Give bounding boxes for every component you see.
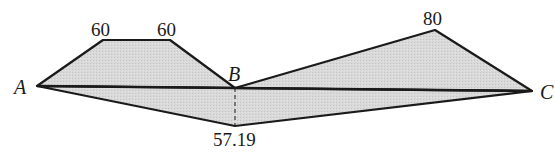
point-label-b: B: [228, 64, 240, 84]
value-label-80: 80: [423, 9, 442, 28]
point-label-a: A: [14, 77, 26, 97]
diagram-shapes: [0, 0, 555, 153]
lower-region: [37, 86, 532, 126]
value-label-60-left: 60: [91, 20, 110, 39]
upper-left-region: [37, 40, 235, 88]
point-label-c: C: [540, 82, 553, 102]
diagram-canvas: A B C 60 60 80 57.19: [0, 0, 555, 153]
value-label-57-19: 57.19: [213, 130, 256, 149]
value-label-60-right: 60: [157, 20, 176, 39]
upper-right-region: [235, 30, 532, 91]
